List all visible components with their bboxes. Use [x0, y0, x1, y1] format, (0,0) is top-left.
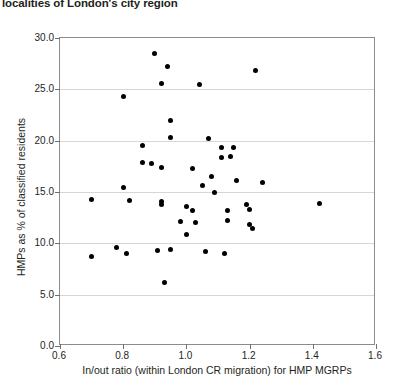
gridline-y: [60, 89, 374, 90]
data-point: [149, 161, 154, 166]
data-point: [165, 64, 170, 69]
y-tick-mark: [55, 38, 60, 39]
y-tick-label: 20.0: [35, 134, 54, 145]
data-point: [212, 190, 217, 195]
data-point: [178, 219, 183, 224]
data-point: [203, 249, 208, 254]
data-point: [190, 166, 195, 171]
x-tick-mark: [186, 344, 187, 349]
data-point: [152, 51, 157, 56]
data-point: [184, 232, 189, 237]
data-point: [209, 174, 214, 179]
data-point: [168, 247, 173, 252]
x-tick-label: 1.4: [305, 350, 319, 361]
x-tick-mark: [123, 344, 124, 349]
y-tick-mark: [55, 141, 60, 142]
data-point: [140, 143, 145, 148]
y-tick-label: 30.0: [35, 32, 54, 43]
data-point: [219, 145, 224, 150]
x-tick-mark: [313, 344, 314, 349]
data-point: [231, 145, 236, 150]
data-point: [127, 198, 132, 203]
data-point: [162, 280, 167, 285]
data-point: [168, 135, 173, 140]
x-axis-title: In/out ratio (within London CR migration…: [59, 364, 375, 376]
data-point: [317, 201, 322, 206]
x-tick-mark: [376, 344, 377, 349]
data-point: [114, 245, 119, 250]
y-tick-mark: [55, 89, 60, 90]
data-point: [247, 207, 252, 212]
x-tick-label: 0.8: [115, 350, 129, 361]
plot-area: [59, 37, 375, 345]
data-point: [159, 81, 164, 86]
data-point: [140, 160, 145, 165]
y-tick-mark: [55, 243, 60, 244]
y-tick-label: 15.0: [35, 186, 54, 197]
data-point: [124, 251, 129, 256]
data-point: [193, 220, 198, 225]
data-point: [260, 180, 265, 185]
data-point: [250, 226, 255, 231]
y-tick-label: 25.0: [35, 83, 54, 94]
x-tick-mark: [60, 344, 61, 349]
y-axis-title: HMPs as % of classified residents: [15, 52, 27, 342]
data-point: [190, 208, 195, 213]
data-point: [253, 68, 258, 73]
y-tick-mark: [55, 295, 60, 296]
data-point: [219, 155, 224, 160]
gridline-y: [60, 295, 374, 296]
x-tick-mark: [250, 344, 251, 349]
x-tick-label: 1.0: [178, 350, 192, 361]
data-point: [184, 204, 189, 209]
y-tick-mark: [55, 192, 60, 193]
data-point: [225, 218, 230, 223]
data-point: [200, 183, 205, 188]
data-point: [197, 82, 202, 87]
data-point: [121, 94, 126, 99]
data-point: [225, 208, 230, 213]
data-point: [168, 118, 173, 123]
x-axis-tick-labels: 0.60.81.01.21.41.6: [59, 350, 375, 364]
x-tick-label: 1.2: [242, 350, 256, 361]
data-point: [121, 185, 126, 190]
data-point: [89, 254, 94, 259]
data-point: [89, 197, 94, 202]
y-axis-title-container: HMPs as % of classified residents: [8, 37, 22, 345]
x-tick-label: 0.6: [52, 350, 66, 361]
y-tick-label: 0.0: [40, 340, 54, 351]
data-point: [222, 251, 227, 256]
data-point: [159, 202, 164, 207]
y-tick-label: 5.0: [40, 288, 54, 299]
gridline-y: [60, 243, 374, 244]
data-point: [228, 154, 233, 159]
data-point: [155, 248, 160, 253]
gridline-y: [60, 141, 374, 142]
x-tick-label: 1.6: [368, 350, 382, 361]
data-point: [234, 178, 239, 183]
y-tick-label: 10.0: [35, 237, 54, 248]
scatter-chart: 0.05.010.015.020.025.030.0 HMPs as % of …: [0, 0, 400, 381]
data-point: [159, 165, 164, 170]
